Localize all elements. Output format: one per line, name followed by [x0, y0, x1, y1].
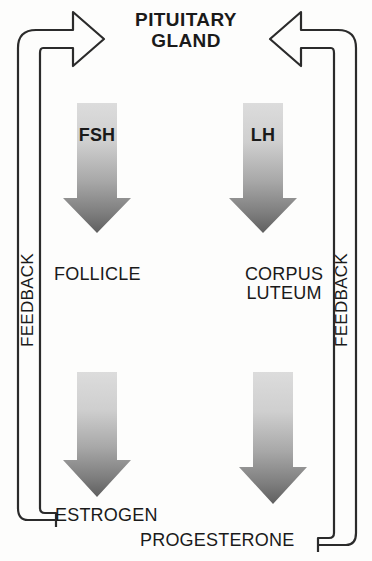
fsh-down-arrow: [63, 103, 131, 233]
progesterone-down-arrow: [239, 372, 307, 504]
feedback-label-left: FEEDBACK: [18, 250, 38, 350]
pituitary-gland-label: PITUITARY GLAND: [0, 10, 372, 51]
fsh-label: FSH: [72, 126, 122, 145]
progesterone-label: PROGESTERONE: [140, 531, 294, 550]
estrogen-label: ESTROGEN: [55, 506, 158, 525]
corpus-luteum-label: CORPUS LUTEUM: [238, 265, 330, 304]
lh-down-arrow: [229, 103, 297, 233]
feedback-label-right: FEEDBACK: [332, 250, 352, 350]
follicle-label: FOLLICLE: [54, 265, 141, 284]
estrogen-down-arrow: [63, 372, 131, 497]
hormone-feedback-diagram: PITUITARY GLAND FSH LH FOLLICLE CORPUS L…: [0, 0, 372, 561]
lh-label: LH: [238, 126, 288, 145]
